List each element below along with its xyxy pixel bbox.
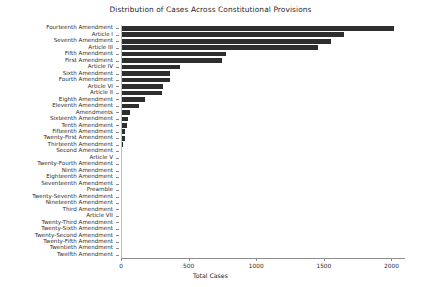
bar-row [121, 58, 405, 63]
bar-row [121, 175, 405, 180]
bar-row [121, 52, 405, 57]
bar [121, 45, 318, 50]
bar-row [121, 129, 405, 134]
bar [121, 65, 180, 70]
bar-row [121, 155, 405, 160]
plot-area [121, 25, 405, 258]
y-axis-tick [116, 35, 119, 36]
y-axis-tick [116, 190, 119, 191]
y-axis-tick [116, 28, 119, 29]
bar-row [121, 104, 405, 109]
y-axis-tick [116, 177, 119, 178]
y-axis-label: Sixteenth Amendment [50, 116, 113, 122]
bar [121, 84, 163, 89]
y-axis-tick [116, 74, 119, 75]
x-axis-tick-label: 0 [119, 263, 123, 269]
bar-row [121, 142, 405, 147]
y-axis-tick [116, 138, 119, 139]
bar-row [121, 194, 405, 199]
y-axis-tick [116, 184, 119, 185]
bar-row [121, 181, 405, 186]
x-axis-tick [189, 258, 190, 261]
bar-row [121, 233, 405, 238]
bar [121, 97, 145, 102]
bar-row [121, 78, 405, 83]
y-axis-tick [116, 132, 119, 133]
bar-row [121, 91, 405, 96]
y-axis-label: Preamble [87, 187, 113, 193]
x-axis-tick [391, 258, 392, 261]
bar-row [121, 26, 405, 31]
x-axis-tick-label: 2000 [384, 263, 399, 269]
y-axis-tick [116, 229, 119, 230]
bar-row [121, 207, 405, 212]
y-axis-label: Article VII [86, 213, 113, 219]
bar-row [121, 97, 405, 102]
y-axis-tick [116, 61, 119, 62]
y-axis-tick [116, 158, 119, 159]
bar-row [121, 110, 405, 115]
bar [121, 32, 344, 37]
bar [121, 104, 139, 109]
y-axis-tick [116, 93, 119, 94]
bar [121, 78, 170, 83]
bar-row [121, 188, 405, 193]
bar-row [121, 214, 405, 219]
bar [121, 26, 394, 31]
y-axis-tick [116, 112, 119, 113]
y-axis-tick [116, 222, 119, 223]
y-axis-tick [116, 216, 119, 217]
bar [121, 110, 130, 115]
bar-row [121, 239, 405, 244]
y-axis-tick [116, 209, 119, 210]
bar [121, 117, 128, 122]
y-axis-tick [116, 41, 119, 42]
x-axis-tick-label: 1500 [316, 263, 331, 269]
bar-row [121, 252, 405, 257]
bar-row [121, 39, 405, 44]
y-axis-label: Eleventh Amendment [52, 103, 113, 109]
bar [121, 71, 170, 76]
bar-row [121, 65, 405, 70]
y-axis-line [121, 25, 122, 258]
bar-row [121, 168, 405, 173]
y-axis-tick [116, 67, 119, 68]
x-axis-tick-label: 500 [183, 263, 194, 269]
bar-row [121, 32, 405, 37]
bar-chart: Distribution of Cases Across Constitutio… [0, 0, 421, 287]
y-axis-tick [116, 119, 119, 120]
y-axis-tick [116, 197, 119, 198]
bar [121, 58, 222, 63]
y-axis-tick [116, 255, 119, 256]
y-axis-label: Fourth Amendment [59, 77, 113, 83]
y-axis-tick [116, 125, 119, 126]
y-axis-label: Nineteenth Amendment [46, 200, 113, 206]
y-axis-label: Twenty-Sixth Amendment [41, 226, 113, 232]
y-axis-tick [116, 145, 119, 146]
x-axis-tick [121, 258, 122, 261]
bar-row [121, 227, 405, 232]
x-axis-tick [324, 258, 325, 261]
y-axis-tick [116, 48, 119, 49]
bar [121, 39, 331, 44]
bar-row [121, 45, 405, 50]
y-axis-tick [116, 242, 119, 243]
y-axis-tick [116, 171, 119, 172]
y-axis-tick [116, 164, 119, 165]
x-axis-tick-label: 1000 [249, 263, 264, 269]
bar-row [121, 123, 405, 128]
y-axis-tick [116, 80, 119, 81]
y-axis-tick [116, 235, 119, 236]
y-axis-tick [116, 248, 119, 249]
y-axis-tick [116, 86, 119, 87]
x-axis-tick [256, 258, 257, 261]
x-axis-title: Total Cases [0, 272, 421, 279]
bar-row [121, 246, 405, 251]
bar-row [121, 149, 405, 154]
bar-row [121, 136, 405, 141]
chart-title: Distribution of Cases Across Constitutio… [0, 5, 421, 14]
y-axis-tick [116, 99, 119, 100]
bar [121, 52, 226, 57]
bar-row [121, 162, 405, 167]
y-axis-label: Twelfth Amendment [57, 252, 113, 258]
